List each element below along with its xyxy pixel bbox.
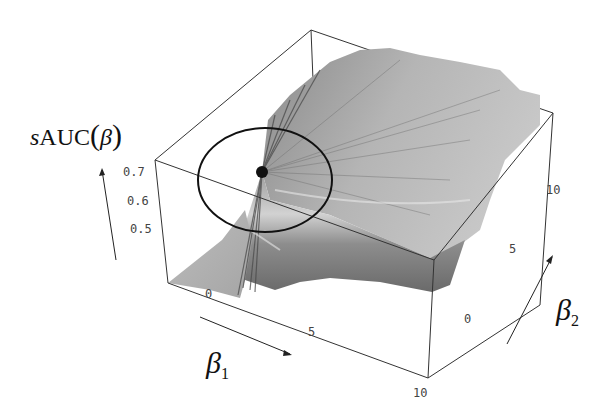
x-axis-title: β1 [205,346,229,382]
svg-text:0.7: 0.7 [123,165,145,179]
surface [168,48,540,298]
svg-text:5: 5 [308,325,315,339]
svg-text:10: 10 [546,183,560,197]
svg-text:0: 0 [464,312,471,326]
z-axis-arrow [99,168,116,260]
svg-text:5: 5 [509,242,516,256]
x-axis-ticks: 0 5 10 [205,287,427,400]
y-axis-arrow [507,255,553,344]
svg-text:0.5: 0.5 [130,222,152,236]
maximum-point [256,166,268,178]
svg-text:0.6: 0.6 [127,194,149,208]
surface-plot: 0.7 0.6 0.5 0 5 10 0 5 10 sAUC(β) β1 β2 [0,0,602,407]
svg-text:0: 0 [205,287,212,301]
svg-text:sAUC(β): sAUC(β) [30,118,122,152]
svg-text:10: 10 [413,386,427,400]
z-axis-ticks: 0.7 0.6 0.5 [123,165,152,236]
y-axis-title: β2 [555,293,579,329]
z-axis-title: sAUC(β) [30,118,122,152]
